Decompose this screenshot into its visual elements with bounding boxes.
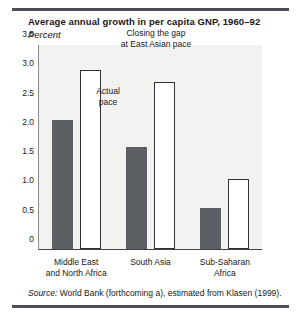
top-divider-rule xyxy=(12,8,289,11)
bar-east-asian-pace[interactable] xyxy=(228,179,249,249)
source-label: Source: xyxy=(28,288,57,298)
y-axis-tick-label: 2.5 xyxy=(22,88,34,98)
annotation-closing-the-gap: Closing the gapat East Asian pace xyxy=(96,28,216,50)
x-axis-category-label: Middle Eastand North Africa xyxy=(46,257,107,279)
plot-inner: 00.51.01.52.02.53.03.5Middle Eastand Nor… xyxy=(39,45,262,249)
x-axis-category-label: Sub-SaharanAfrica xyxy=(200,257,250,279)
source-note: Source: World Bank (forthcoming a), esti… xyxy=(28,288,282,298)
bar-actual-pace[interactable] xyxy=(52,120,73,249)
figure-container: Average annual growth in per capita GNP,… xyxy=(0,0,301,314)
bar-actual-pace[interactable] xyxy=(126,147,147,250)
bar-east-asian-pace[interactable] xyxy=(154,82,175,249)
page-title: Average annual growth in per capita GNP,… xyxy=(28,16,260,27)
bottom-divider-rule xyxy=(12,305,289,308)
y-axis-tick-label: 1.5 xyxy=(22,146,34,156)
y-axis-tick-label: 1.0 xyxy=(22,175,34,185)
bar-group: South Asia xyxy=(113,45,187,249)
bar-group: Sub-SaharanAfrica xyxy=(188,45,262,249)
annotation-actual-pace: Actualpace xyxy=(84,86,132,108)
y-axis-tick-label: 3.0 xyxy=(22,58,34,68)
bar-group: Middle Eastand North Africa xyxy=(39,45,113,249)
x-axis-category-label: South Asia xyxy=(130,257,171,268)
y-axis-tick-label: 0 xyxy=(29,234,34,244)
source-text: World Bank (forthcoming a), estimated fr… xyxy=(57,288,281,298)
y-axis-tick-label: 3.5 xyxy=(22,29,34,39)
y-axis-tick-label: 2.0 xyxy=(22,117,34,127)
plot-area: 00.51.01.52.02.53.03.5Middle Eastand Nor… xyxy=(38,45,262,250)
bar-actual-pace[interactable] xyxy=(200,208,221,249)
y-axis-tick-label: 0.5 xyxy=(22,205,34,215)
